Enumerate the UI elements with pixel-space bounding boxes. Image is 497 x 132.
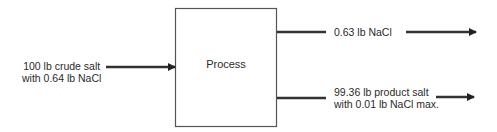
output-stream-2-label: 99.36 lb product salt with 0.01 lb NaCl … <box>334 86 439 110</box>
output-stream-1-label: 0.63 lb NaCl <box>334 26 392 38</box>
input-stream-line-1: 100 lb crude salt <box>22 60 101 72</box>
output-stream-2-line-2: with 0.01 lb NaCl max. <box>334 98 439 110</box>
process-label: Process <box>176 58 276 70</box>
output-stream-2-line-1: 99.36 lb product salt <box>334 86 439 98</box>
input-stream-label: 100 lb crude salt with 0.64 lb NaCl <box>22 60 101 84</box>
output-stream-1-line-1: 0.63 lb NaCl <box>334 26 392 38</box>
process-flow-diagram: 100 lb crude salt with 0.64 lb NaCl Proc… <box>0 0 497 132</box>
input-stream-line-2: with 0.64 lb NaCl <box>22 72 101 84</box>
